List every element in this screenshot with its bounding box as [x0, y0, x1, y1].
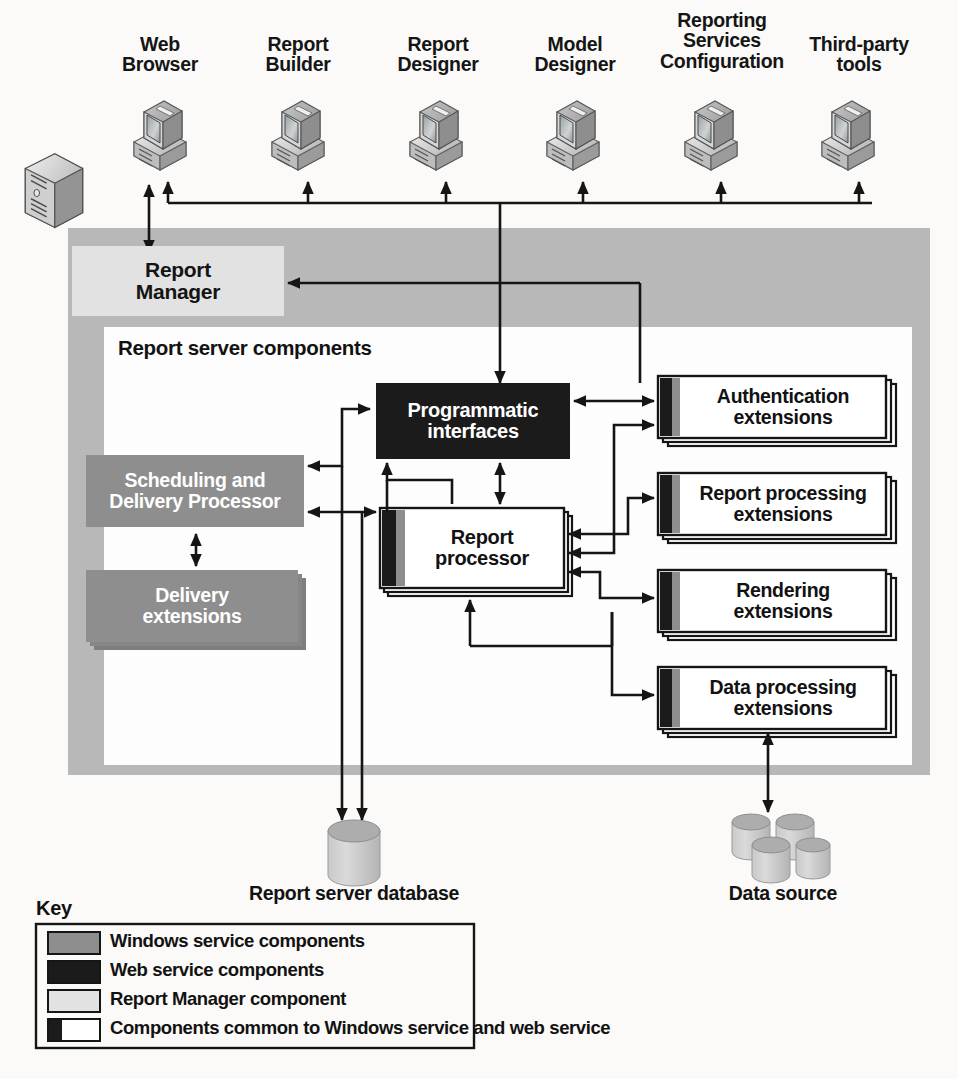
- client-label-line2: Browser: [110, 54, 210, 74]
- desktop-computer-icon-report-designer: [410, 101, 462, 170]
- key-label: Components common to Windows service and…: [110, 1017, 610, 1038]
- report-manager-box: [72, 246, 284, 316]
- report-processor-stack: [380, 508, 572, 596]
- architecture-diagram: Web Browser Report Builder Report Design…: [0, 0, 958, 1079]
- report-server-database-label: Report server database: [214, 882, 494, 905]
- desktop-computer-icon-model-designer: [547, 101, 599, 170]
- client-label-model-designer: Model Designer: [521, 34, 629, 75]
- data-source-label: Data source: [688, 882, 878, 905]
- key-item-common-components[interactable]: Components common to Windows service and…: [110, 1017, 610, 1039]
- desktop-computer-icon-third-party-tools: [822, 101, 874, 170]
- scheduling-and-delivery-processor-box: [86, 455, 304, 527]
- key-swatch-common: [48, 1019, 100, 1041]
- report-processing-extensions-stack: [658, 473, 896, 543]
- key-item-windows-service-components[interactable]: Windows service components: [110, 930, 365, 952]
- authentication-extensions-stack: [658, 376, 896, 446]
- report-server-components-title: Report server components: [118, 336, 372, 360]
- client-label-line2: Designer: [384, 54, 492, 74]
- client-label-line2: Designer: [521, 54, 629, 74]
- report-server-database-caption: Report server database: [249, 882, 459, 904]
- key-label: Web service components: [110, 959, 324, 980]
- client-label-web-browser: Web Browser: [110, 34, 210, 75]
- report-server-components-label: Report server components: [118, 336, 372, 359]
- key-swatch-web-service: [48, 961, 100, 983]
- client-label-line2: Builder: [248, 54, 348, 74]
- desktop-computer-icon-reporting-services-configuration: [685, 101, 737, 170]
- client-label-line1: Report: [248, 34, 348, 54]
- programmatic-interfaces-box: [376, 383, 570, 459]
- client-label-line2: Services: [645, 30, 799, 50]
- key-item-web-service-components[interactable]: Web service components: [110, 959, 324, 981]
- client-label-reporting-services-configuration: Reporting Services Configuration: [645, 10, 799, 71]
- desktop-computer-icon-report-builder: [272, 101, 324, 170]
- client-label-line1: Web: [110, 34, 210, 54]
- key-swatch-report-manager: [48, 990, 100, 1012]
- diagram-canvas: [0, 0, 958, 1079]
- client-label-line3: Configuration: [645, 51, 799, 71]
- key-swatch-windows-service: [48, 932, 100, 954]
- client-label-line1: Model: [521, 34, 629, 54]
- server-tower-icon: [25, 154, 82, 228]
- client-label-line2: tools: [796, 54, 922, 74]
- desktop-computer-icon-web-browser: [134, 101, 186, 170]
- client-label-line1: Report: [384, 34, 492, 54]
- client-label-report-designer: Report Designer: [384, 34, 492, 75]
- delivery-extensions-stack: [86, 570, 306, 650]
- key-item-report-manager-component[interactable]: Report Manager component: [110, 988, 346, 1010]
- client-label-line1: Reporting: [645, 10, 799, 30]
- database-cylinder-icon: [328, 820, 380, 886]
- database-cluster-icon: [732, 814, 830, 883]
- data-source-caption: Data source: [729, 882, 837, 904]
- client-label-line1: Third-party: [796, 34, 922, 54]
- key-title-text: Key: [36, 897, 72, 919]
- rendering-extensions-stack: [658, 570, 896, 640]
- data-processing-extensions-stack: [658, 667, 896, 737]
- key-label: Windows service components: [110, 930, 365, 951]
- key-title: Key: [36, 897, 72, 920]
- client-label-third-party-tools: Third-party tools: [796, 34, 922, 75]
- key-label: Report Manager component: [110, 988, 346, 1009]
- client-label-report-builder: Report Builder: [248, 34, 348, 75]
